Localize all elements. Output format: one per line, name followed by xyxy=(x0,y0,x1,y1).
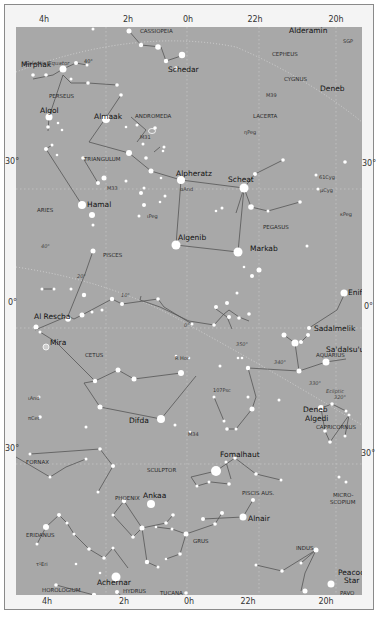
ra-label-bottom-0h: 0h xyxy=(184,597,194,606)
star-alderamin: Alderamin xyxy=(289,27,328,35)
object-eta-peg: ιPeg xyxy=(147,213,158,220)
object-tau-eri: πCet xyxy=(28,415,40,421)
star-difda: Difda xyxy=(129,416,149,425)
star-al-rescha: Al Rescha xyxy=(34,312,70,321)
constellation-sculptor: SCULPTOR xyxy=(147,467,176,473)
star-almaak: Almaak xyxy=(94,112,123,121)
star-fomalhaut: Fomalhaut xyxy=(220,450,260,459)
star-scheat: Scheat xyxy=(228,175,254,184)
star-schedar: Schedar xyxy=(168,65,200,74)
dec-label-right-30n: 30° xyxy=(362,159,376,168)
object-r-hor: τ¹Eri xyxy=(36,561,48,567)
ra-label-top-20h: 20h xyxy=(328,15,343,24)
constellation-lacerta: LACERTA xyxy=(253,113,278,119)
ra-label-top-2h: 2h xyxy=(123,15,133,24)
constellation-microscopium-1: MICRO- xyxy=(333,492,354,498)
star-deneb: Deneb xyxy=(320,84,345,93)
constellation-cepheus: CEPHEUS xyxy=(272,51,298,57)
star-hamal: Hamal xyxy=(87,200,111,209)
object-107psc: R Hor xyxy=(175,355,190,361)
constellation-cygnus: CYGNUS xyxy=(284,76,308,82)
object-m33: M33 xyxy=(107,185,118,191)
ecliptic-deg-20: 20° xyxy=(77,273,86,279)
constellation-eridanus: ERIDANUS xyxy=(26,532,55,538)
constellation-andromeda: ANDROMEDA xyxy=(135,113,172,119)
object-61cyg: SGP xyxy=(343,38,353,44)
ra-label-bottom-22h: 22h xyxy=(240,597,255,606)
star-mira: Mira xyxy=(50,338,66,347)
m31-galaxy-icon xyxy=(149,129,156,134)
constellation-capricornus: CAPRICORNUS xyxy=(316,424,356,430)
ra-label-top-22h: 22h xyxy=(247,15,262,24)
star-algol: Algol xyxy=(40,106,59,115)
star-algenib: Algenib xyxy=(178,233,206,242)
dec-label-right-30s: 30° xyxy=(361,449,375,458)
constellation-grus: GRUS xyxy=(193,538,209,544)
object-sgp: M34 xyxy=(188,431,199,437)
star-deneb-algedi-1: Deneb xyxy=(303,405,328,414)
constellation-perseus: PERSEUS xyxy=(49,93,75,99)
object-pi-cet: ιAnd xyxy=(28,395,39,401)
ecliptic-deg-320: 320° xyxy=(334,394,347,400)
star-markab: Markab xyxy=(250,244,278,253)
object-m31: M31 xyxy=(140,134,151,140)
ra-label-bottom-4h: 4h xyxy=(42,597,52,606)
sky-chart: Galactic Equator 40° CASSIOPEIA CEPHEUS … xyxy=(16,27,362,595)
constellation-phoenix: PHOENIX xyxy=(115,495,140,501)
constellation-triangulum: TRIANGULUM xyxy=(83,156,121,162)
constellation-cassiopeia: CASSIOPEIA xyxy=(140,28,173,34)
star-sadalsuud: Sa'dalsu'ud xyxy=(326,345,362,354)
object-iota-and: αAnd xyxy=(180,186,193,192)
object-iota-peg: κPeg xyxy=(340,211,352,218)
ecliptic-deg-40: 40° xyxy=(41,243,50,249)
star-alnair: Alnair xyxy=(248,514,271,523)
object-kappa-peg: μCyg xyxy=(320,187,333,194)
star-ankaa: Ankaa xyxy=(143,491,166,500)
object-mu-cyg: 61Cyg xyxy=(319,174,335,181)
dec-label-left-30s: 30° xyxy=(5,444,19,453)
star-enif: Enif xyxy=(348,288,362,297)
ra-label-top-4h: 4h xyxy=(39,15,49,24)
constellation-microscopium-2: SCOPIUM xyxy=(330,499,356,505)
star-alpheratz: Alpheratz xyxy=(176,169,212,178)
ra-label-bottom-2h: 2h xyxy=(119,597,129,606)
object-m39: M39 xyxy=(266,92,277,98)
sky-chart-svg: Galactic Equator 40° CASSIOPEIA CEPHEUS … xyxy=(16,27,362,595)
ra-label-bottom-20h: 20h xyxy=(318,597,333,606)
dec-label-right-0: 0° xyxy=(364,302,373,311)
ecliptic-deg-350: 350° xyxy=(236,341,249,347)
constellation-tucana: TUCANA xyxy=(159,590,183,595)
constellation-cetus: CETUS xyxy=(85,352,104,358)
object-omega2: 107Psc xyxy=(213,387,231,393)
constellation-fornax: FORNAX xyxy=(26,459,49,465)
star-sadalmelik: Sadalmelik xyxy=(314,324,356,333)
dec-label-left-0: 0° xyxy=(8,298,17,307)
constellation-pavo: PAVO xyxy=(340,590,355,595)
constellation-pisces: PISCES xyxy=(103,252,123,258)
ecliptic-deg-10: 10° xyxy=(121,292,130,298)
object-theta-and: ηPeg xyxy=(244,129,256,136)
ecliptic-deg-340: 340° xyxy=(274,359,287,365)
constellation-indus: INDUS xyxy=(296,545,314,551)
constellation-hydrus: HYDRUS xyxy=(123,588,147,594)
ecliptic-deg-330: 330° xyxy=(309,380,322,386)
ra-label-top-0h: 0h xyxy=(183,15,193,24)
star-mirphak: Mirphak xyxy=(21,60,52,69)
dec-label-left-30n: 30° xyxy=(5,157,19,166)
galactic-equator-deg: 40° xyxy=(84,58,93,64)
star-peacock-2: Star xyxy=(344,576,360,585)
star-achernar: Achernar xyxy=(97,578,132,587)
constellation-piscis-austrinus: PISCIS AUS. xyxy=(242,490,274,496)
star-deneb-algedi-2: Algedi xyxy=(305,414,328,423)
ecliptic-deg-0: 0° xyxy=(184,322,190,328)
constellation-aries: ARIES xyxy=(37,207,54,213)
constellation-horologium: HOROLOGIUM xyxy=(42,587,81,593)
constellation-pegasus: PEGASUS xyxy=(263,224,289,230)
